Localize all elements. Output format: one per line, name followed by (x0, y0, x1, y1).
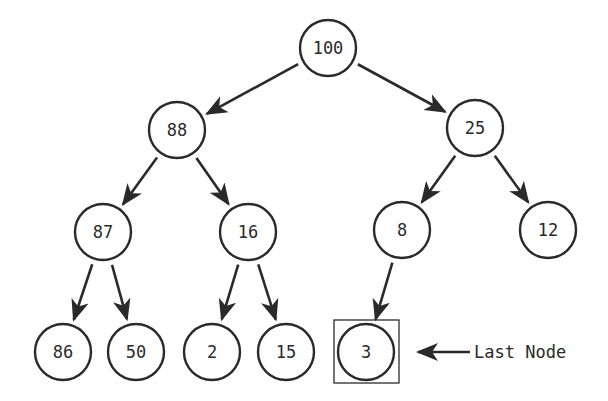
edge-arrow-25-to-8 (422, 156, 455, 203)
node-value: 16 (238, 222, 258, 242)
node-value: 86 (53, 342, 73, 362)
node-value: 100 (313, 38, 344, 58)
tree-node-86: 86 (35, 324, 91, 380)
node-value: 2 (207, 342, 217, 362)
nodes: 1008825871681286502153 (35, 20, 576, 380)
node-value: 15 (276, 342, 296, 362)
node-value: 50 (126, 342, 146, 362)
edge-arrow-100-to-25 (358, 64, 445, 111)
tree-node-12: 12 (520, 202, 576, 258)
edge-arrow-16-to-2 (222, 265, 238, 320)
heap-tree-diagram: 1008825871681286502153 Last Node (0, 0, 608, 401)
tree-node-25: 25 (447, 100, 503, 156)
tree-node-2: 2 (184, 324, 240, 380)
edge-arrow-25-to-12 (495, 156, 528, 203)
edge-arrow-87-to-50 (112, 265, 127, 319)
node-value: 87 (93, 222, 113, 242)
tree-node-8: 8 (374, 202, 430, 258)
node-value: 88 (167, 120, 187, 140)
node-value: 8 (397, 220, 407, 240)
edge-arrow-88-to-87 (123, 158, 157, 205)
edge-arrow-100-to-88 (207, 64, 298, 114)
tree-node-50: 50 (108, 324, 164, 380)
tree-node-88: 88 (149, 102, 205, 158)
tree-node-16: 16 (220, 204, 276, 260)
edge-arrow-88-to-16 (196, 158, 228, 204)
edge-arrow-8-to-3 (376, 263, 393, 320)
tree-node-15: 15 (258, 324, 314, 380)
last-node-label: Last Node (474, 342, 566, 362)
tree-node-87: 87 (75, 204, 131, 260)
tree-node-3: 3 (338, 324, 394, 380)
node-value: 3 (361, 342, 371, 362)
node-value: 12 (538, 220, 558, 240)
tree-node-100: 100 (300, 20, 356, 76)
edge-arrow-87-to-86 (74, 264, 92, 319)
edge-arrow-16-to-15 (258, 264, 275, 319)
node-value: 25 (465, 118, 485, 138)
edges (74, 64, 528, 320)
